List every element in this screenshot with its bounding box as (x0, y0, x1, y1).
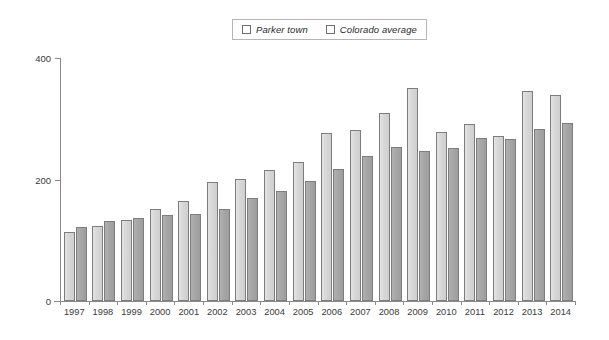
bar-colorado-average (448, 148, 459, 301)
x-tick-label: 2006 (321, 307, 342, 317)
bar-parker-town (407, 88, 418, 301)
bar-group (321, 58, 344, 301)
bar-group (64, 58, 87, 301)
x-tick-label: 2004 (264, 307, 285, 317)
bar-group (178, 58, 201, 301)
bar-colorado-average (391, 147, 402, 301)
bar-group (92, 58, 115, 301)
x-tick-label: 1997 (64, 307, 85, 317)
bar-group (264, 58, 287, 301)
legend-swatch-colorado-average (326, 25, 335, 34)
bar-group (464, 58, 487, 301)
x-tick-mark (146, 301, 147, 305)
bar-colorado-average (190, 214, 201, 301)
x-tick-mark (461, 301, 462, 305)
bar-colorado-average (133, 218, 144, 301)
y-tick-label: 0 (46, 296, 51, 307)
bar-group (436, 58, 459, 301)
bar-colorado-average (562, 123, 573, 301)
bar-parker-town (321, 133, 332, 301)
x-tick-label: 2002 (207, 307, 228, 317)
bar-chart: Parker town Colorado average 0200400 199… (0, 0, 609, 340)
x-tick-mark (174, 301, 175, 305)
bar-parker-town (207, 182, 218, 301)
y-tick-label: 200 (35, 174, 51, 185)
bar-group (493, 58, 516, 301)
bar-parker-town (493, 136, 504, 301)
x-tick-label: 2014 (550, 307, 571, 317)
bar-parker-town (92, 226, 103, 301)
x-tick-label: 2007 (350, 307, 371, 317)
legend-label-parker-town: Parker town (256, 24, 308, 35)
x-tick-mark (232, 301, 233, 305)
bar-group (379, 58, 402, 301)
bar-colorado-average (333, 169, 344, 301)
bar-parker-town (121, 220, 132, 301)
x-tick-label: 2000 (150, 307, 171, 317)
bar-colorado-average (476, 138, 487, 301)
y-tick-label: 400 (35, 53, 51, 64)
bar-group (350, 58, 373, 301)
x-tick-label: 2005 (293, 307, 314, 317)
x-tick-mark (346, 301, 347, 305)
x-tick-mark (375, 301, 376, 305)
chart-legend: Parker town Colorado average (232, 19, 427, 40)
x-tick-label: 2011 (465, 307, 485, 317)
bar-colorado-average (162, 215, 173, 301)
bar-parker-town (350, 130, 361, 301)
bar-group (293, 58, 316, 301)
bar-colorado-average (247, 198, 258, 301)
bar-parker-town (64, 232, 75, 301)
bar-parker-town (550, 95, 561, 301)
legend-entry-colorado-average: Colorado average (326, 24, 417, 35)
bar-colorado-average (534, 129, 545, 301)
x-tick-mark (117, 301, 118, 305)
legend-entry-parker-town: Parker town (242, 24, 308, 35)
bar-parker-town (178, 201, 189, 301)
bar-colorado-average (76, 227, 87, 301)
legend-swatch-parker-town (242, 25, 251, 34)
bar-colorado-average (362, 156, 373, 301)
x-tick-label: 2001 (178, 307, 199, 317)
x-tick-mark (546, 301, 547, 305)
x-tick-mark (318, 301, 319, 305)
bar-group (150, 58, 173, 301)
x-tick-label: 1998 (93, 307, 114, 317)
x-tick-mark (489, 301, 490, 305)
bar-parker-town (293, 162, 304, 301)
bar-colorado-average (219, 209, 230, 301)
x-tick-label: 2003 (236, 307, 257, 317)
bar-parker-town (235, 179, 246, 301)
bar-group (121, 58, 144, 301)
x-tick-label: 2012 (493, 307, 514, 317)
x-tick-label: 2008 (379, 307, 400, 317)
x-tick-label: 2009 (407, 307, 428, 317)
bar-colorado-average (276, 191, 287, 301)
x-tick-mark (60, 301, 61, 305)
x-tick-mark (289, 301, 290, 305)
bar-group (235, 58, 258, 301)
bar-colorado-average (104, 221, 115, 301)
bar-parker-town (464, 124, 475, 301)
x-tick-mark (518, 301, 519, 305)
x-tick-label: 2013 (522, 307, 543, 317)
x-axis-ticks: 1997199819992000200120022003200420052006… (60, 301, 575, 323)
bar-parker-town (522, 91, 533, 301)
plot-area: 0200400 (60, 58, 575, 301)
bar-group (522, 58, 545, 301)
x-tick-mark (403, 301, 404, 305)
legend-label-colorado-average: Colorado average (340, 24, 417, 35)
bar-group (407, 58, 430, 301)
x-tick-mark (260, 301, 261, 305)
x-tick-mark (89, 301, 90, 305)
x-tick-mark (575, 301, 576, 305)
x-tick-label: 2010 (436, 307, 457, 317)
bar-group (550, 58, 573, 301)
bar-colorado-average (505, 139, 516, 301)
x-tick-mark (203, 301, 204, 305)
x-tick-label: 1999 (121, 307, 142, 317)
bar-colorado-average (419, 151, 430, 301)
x-tick-mark (432, 301, 433, 305)
bar-parker-town (264, 170, 275, 301)
bar-parker-town (436, 132, 447, 301)
